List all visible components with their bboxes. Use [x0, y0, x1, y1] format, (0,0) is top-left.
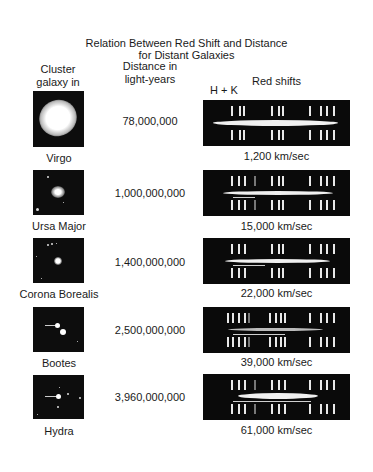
- cluster-name: Virgo: [0, 152, 118, 165]
- spectrum-hydra: [203, 374, 350, 420]
- redshift-value: 39,000 km/sec: [203, 356, 350, 369]
- galaxy-image-corona-borealis: [33, 238, 84, 283]
- header-cluster: Cluster galaxy in: [18, 63, 98, 89]
- cluster-name: Hydra: [0, 425, 118, 438]
- header-cluster-line1: Cluster: [18, 63, 98, 76]
- galaxy-image-bootes: [33, 307, 84, 352]
- galaxy-image-ursa-major: [33, 170, 84, 215]
- redshift-value: 61,000 km/sec: [203, 424, 350, 437]
- hk-label: H + K: [210, 84, 238, 97]
- distance-value: 2,500,000,000: [100, 324, 200, 337]
- spectrum-corona-borealis: [203, 238, 350, 284]
- spectrum-virgo: [203, 100, 350, 146]
- spectrum-ursa-major: [203, 170, 350, 216]
- cluster-name: Ursa Major: [0, 220, 118, 233]
- redshift-value: 22,000 km/sec: [203, 287, 350, 300]
- redshift-value: 15,000 km/sec: [203, 220, 350, 233]
- redshift-value: 1,200 km/sec: [203, 150, 350, 163]
- header-cluster-line2: galaxy in: [18, 76, 98, 89]
- cluster-name: Corona Borealis: [0, 288, 118, 301]
- header-distance-line1: Distance in: [105, 60, 195, 73]
- distance-value: 78,000,000: [100, 115, 200, 128]
- header-distance-line2: light-years: [105, 73, 195, 86]
- distance-value: 1,000,000,000: [100, 187, 200, 200]
- cluster-name: Bootes: [0, 357, 118, 370]
- distance-value: 3,960,000,000: [100, 391, 200, 404]
- spectrum-bootes: [203, 307, 350, 353]
- distance-value: 1,400,000,000: [100, 256, 200, 269]
- header-distance: Distance in light-years: [105, 60, 195, 86]
- galaxy-image-hydra: [33, 375, 84, 419]
- galaxy-image-virgo: [33, 91, 84, 147]
